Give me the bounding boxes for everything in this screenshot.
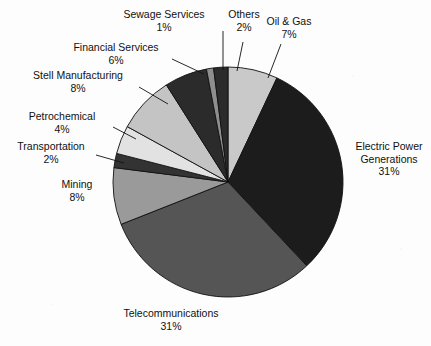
slice-label-sewage-services-name: Sewage Services	[123, 8, 204, 20]
slice-label-electric-power-generations: Electric Power Generations 31%	[348, 140, 430, 178]
slice-label-electric-power-generations-value: 31%	[348, 165, 430, 178]
slice-label-sewage-services-value: 1%	[104, 21, 224, 34]
slice-label-petrochemical: Petrochemical 4%	[18, 110, 106, 135]
slice-label-stell-manufacturing-name: Stell Manufacturing	[33, 69, 123, 81]
slice-label-stell-manufacturing-value: 8%	[22, 82, 134, 95]
slice-label-sewage-services: Sewage Services 1%	[104, 8, 224, 33]
slice-label-telecommunications-name: Telecommunications	[123, 307, 218, 319]
slice-label-telecommunications: Telecommunications 31%	[101, 307, 241, 332]
slice-label-mining-name: Mining	[62, 178, 93, 190]
slice-label-transportation-value: 2%	[5, 153, 97, 166]
slice-label-transportation: Transportation 2%	[5, 140, 97, 165]
slice-label-financial-services-name: Financial Services	[73, 41, 158, 53]
slice-label-mining-value: 8%	[46, 191, 108, 204]
slice-label-petrochemical-name: Petrochemical	[29, 110, 96, 122]
slice-label-oil-gas: Oil & Gas 7%	[256, 15, 322, 40]
leader-line-financial	[172, 59, 204, 74]
slice-label-transportation-name: Transportation	[17, 140, 84, 152]
slice-label-mining: Mining 8%	[46, 178, 108, 203]
pie-chart-figure: Sewage Services 1% Others 2% Oil & Gas 7…	[0, 0, 431, 346]
slice-label-financial-services-value: 6%	[62, 54, 170, 67]
leader-line-others	[237, 42, 243, 71]
leader-line-oil-gas	[268, 44, 281, 78]
slice-label-stell-manufacturing: Stell Manufacturing 8%	[22, 69, 134, 94]
slice-label-telecommunications-value: 31%	[101, 320, 241, 333]
pie-slices-group	[113, 67, 343, 297]
slice-label-petrochemical-value: 4%	[18, 123, 106, 136]
slice-label-electric-power-generations-name-2: Generations	[348, 153, 430, 166]
slice-label-oil-gas-value: 7%	[256, 28, 322, 41]
slice-label-electric-power-generations-name-1: Electric Power	[355, 140, 422, 152]
slice-label-oil-gas-name: Oil & Gas	[267, 15, 312, 27]
slice-label-financial-services: Financial Services 6%	[62, 41, 170, 66]
